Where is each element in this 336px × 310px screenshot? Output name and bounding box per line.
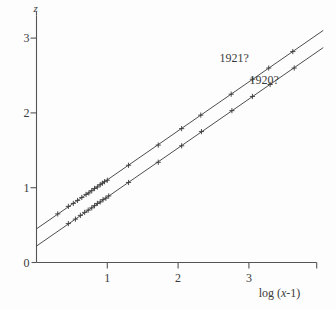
series-label-1921: 1921? <box>219 52 248 64</box>
x-tick-label: 1 <box>101 272 113 284</box>
plot-canvas <box>0 0 336 310</box>
y-tick-label: 3 <box>18 32 30 44</box>
x-tick-label: 3 <box>243 272 255 284</box>
y-tick-label: 2 <box>18 107 30 119</box>
data-point-marker <box>75 198 80 203</box>
series-group <box>37 30 324 246</box>
fit-line-1920 <box>37 48 324 246</box>
x-axis-label: log (x-1) <box>259 287 301 299</box>
chart-figure: z log (x-1) 1921? 1920? 0123123 <box>0 0 336 310</box>
fit-line-1921 <box>37 30 324 228</box>
axes-group <box>31 12 317 269</box>
y-axis-label: z <box>34 3 38 14</box>
x-axis-label-prefix: log ( <box>259 286 281 300</box>
x-axis-label-suffix: -1) <box>286 286 300 300</box>
y-tick-label: 0 <box>18 257 30 269</box>
series-label-1920: 1920? <box>250 74 279 86</box>
x-tick-label: 2 <box>172 272 184 284</box>
y-tick-label: 1 <box>18 182 30 194</box>
